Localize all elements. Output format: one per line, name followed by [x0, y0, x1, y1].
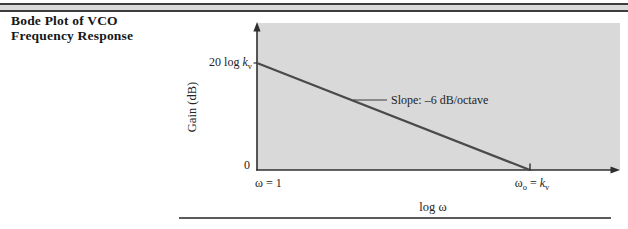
y-axis-zero-label: 0: [234, 158, 250, 172]
plot-overlay: [0, 0, 628, 229]
x-axis-label: log ω: [398, 200, 468, 214]
x-axis-end-label: ωo = kv: [500, 176, 564, 190]
y-axis-arrowhead-icon: [253, 22, 260, 32]
slope-annotation: Slope: –6 dB/octave: [391, 93, 488, 107]
x-end-symbol: ω: [515, 176, 523, 190]
x-end-value-subscript: v: [545, 182, 549, 192]
y-axis-max-prefix: 20 log: [209, 55, 242, 69]
response-line: [257, 63, 530, 170]
x-axis-arrowhead-icon: [611, 166, 621, 173]
y-axis-label: Gain (dB): [185, 62, 199, 152]
y-axis-max-subscript: v: [248, 61, 252, 71]
y-axis-max-label: 20 log kv: [176, 55, 252, 69]
figure-bode-plot-vco: Bode Plot of VCO Frequency Response Gain…: [0, 0, 628, 229]
bottom-rule: [179, 217, 611, 219]
x-axis-origin-label: ω = 1: [255, 176, 305, 190]
x-end-equals: =: [527, 176, 540, 190]
